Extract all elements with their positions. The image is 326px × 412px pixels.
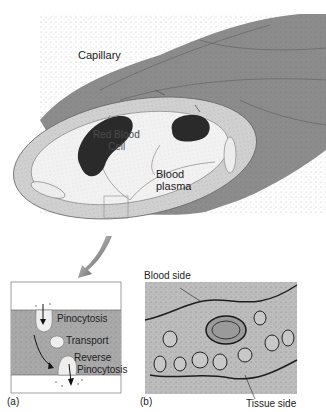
tissue-side-label: Tissue side — [246, 398, 296, 410]
reverse-label-line1: Reverse — [74, 352, 111, 364]
red-blood-cell-label-line1: Red Blood — [93, 129, 140, 141]
panel-b-tag: (b) — [140, 396, 152, 408]
red-blood-cell-label-line2: Cell — [108, 141, 125, 153]
pinocytosis-label: Pinocytosis — [57, 313, 108, 325]
panel-b-micrograph — [145, 282, 297, 399]
blood-plasma-label-line1: Blood — [156, 168, 184, 180]
panel-a-tag: (a) — [7, 396, 19, 408]
blood-plasma-label-line2: plasma — [156, 180, 191, 192]
capillary-illustration — [0, 0, 326, 412]
blood-side-label: Blood side — [144, 270, 191, 282]
red-blood-cell-right — [172, 115, 210, 142]
transport-label: Transport — [66, 335, 108, 347]
capillary-label: Capillary — [78, 49, 121, 61]
reverse-pinocytosis-label-line2: Pinocytosis — [77, 364, 128, 376]
curved-arrow-icon — [78, 236, 112, 278]
